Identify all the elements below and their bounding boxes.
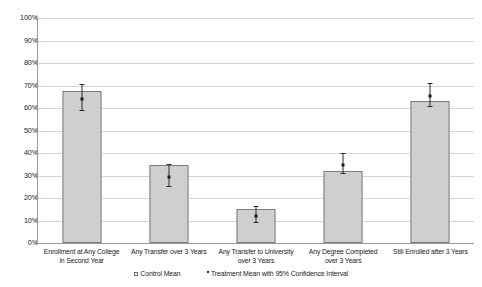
x-axis-tick-label: Still Enrolled after 3 Years	[381, 248, 480, 257]
error-bar-cap-lower	[341, 173, 346, 174]
y-axis-tick-label: 20%	[4, 194, 38, 202]
bar-group	[38, 18, 125, 243]
plot-area	[38, 18, 474, 243]
legend-item: Control Mean	[134, 269, 181, 278]
y-axis-tick-label: 10%	[4, 217, 38, 225]
treatment-mean-marker	[167, 176, 170, 179]
bar-group	[125, 18, 212, 243]
bar-group	[212, 18, 299, 243]
treatment-mean-marker	[80, 98, 83, 101]
chart-legend: Control MeanTreatment Mean with 95% Conf…	[0, 269, 482, 283]
treatment-mean-marker	[429, 95, 432, 98]
error-bar-cap-lower	[428, 106, 433, 107]
x-axis-tick-label: Any Degree Completedover 3 Years	[294, 248, 393, 265]
y-axis-tick-label: 50%	[4, 127, 38, 135]
x-axis-tick-label-line: over 3 Years	[294, 257, 393, 266]
x-axis-tick-label-line: Enrollment at Any College	[32, 248, 131, 257]
bar-group	[387, 18, 474, 243]
x-axis: Enrollment at Any Collegein Second YearA…	[38, 248, 474, 270]
y-axis-tick-label: 30%	[4, 172, 38, 180]
error-bar-cap-lower	[79, 110, 84, 111]
error-bar-cap-upper	[166, 164, 171, 165]
y-axis-tick-label: 70%	[4, 82, 38, 90]
error-bar-cap-lower	[166, 186, 171, 187]
bar-control-mean	[411, 101, 450, 243]
bar-control-mean	[324, 171, 363, 243]
y-axis-tick-label: 90%	[4, 37, 38, 45]
error-bar-cap-upper	[341, 153, 346, 154]
x-axis-tick-label-line: over 3 Years	[206, 257, 305, 266]
x-axis-tick-label-line: in Second Year	[32, 257, 131, 266]
legend-label: Treatment Mean with 95% Confidence Inter…	[211, 269, 348, 278]
bar-control-mean	[62, 91, 101, 243]
treatment-mean-marker	[342, 163, 345, 166]
grid-line	[38, 243, 474, 244]
x-axis-tick-label-line: Any Transfer to University	[206, 248, 305, 257]
y-axis-tick-label: 100%	[4, 14, 38, 22]
y-axis: 100%90%80%70%60%50%40%30%20%10%0%	[0, 0, 38, 287]
error-bar-cap-upper	[253, 206, 258, 207]
x-axis-tick-label-line: Any Degree Completed	[294, 248, 393, 257]
legend-label: Control Mean	[140, 269, 180, 278]
error-bar-cap-lower	[253, 222, 258, 223]
legend-item: Treatment Mean with 95% Confidence Inter…	[207, 269, 349, 278]
treatment-mean-marker	[254, 215, 257, 218]
x-axis-tick-label: Any Transfer over 3 Years	[119, 248, 218, 257]
bar-chart: 100%90%80%70%60%50%40%30%20%10%0% Enroll…	[0, 0, 482, 287]
x-axis-tick-label: Enrollment at Any Collegein Second Year	[32, 248, 131, 265]
error-bar-cap-upper	[79, 84, 84, 85]
y-axis-tick-label: 60%	[4, 104, 38, 112]
bar-group	[300, 18, 387, 243]
error-bar-cap-upper	[428, 83, 433, 84]
y-axis-tick-label: 0%	[4, 239, 38, 247]
legend-square-icon	[134, 272, 138, 276]
legend-dot-icon	[207, 271, 209, 273]
y-axis-tick-label: 40%	[4, 149, 38, 157]
y-axis-tick-label: 80%	[4, 59, 38, 67]
x-axis-tick-label: Any Transfer to Universityover 3 Years	[206, 248, 305, 265]
x-axis-tick-label-line: Any Transfer over 3 Years	[119, 248, 218, 257]
error-bar	[255, 206, 256, 222]
x-axis-tick-label-line: Still Enrolled after 3 Years	[381, 248, 480, 257]
